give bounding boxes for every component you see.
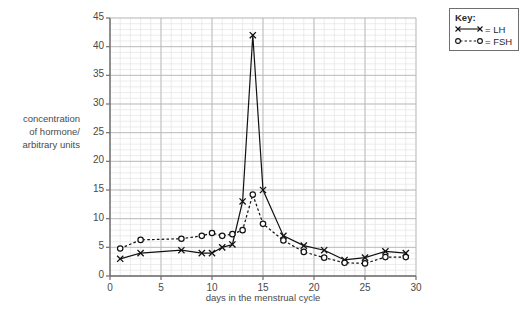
data-point-fsh: [250, 192, 255, 197]
y-tick-label: 5: [80, 240, 104, 251]
y-tick-label: 0: [80, 269, 104, 280]
y-tick-label: 45: [80, 11, 104, 22]
chart-figure: concentration of hormone/ arbitrary unit…: [0, 0, 527, 314]
data-point-fsh: [260, 221, 265, 226]
data-point-fsh: [362, 261, 367, 266]
y-tick-label: 20: [80, 154, 104, 165]
data-point-fsh: [240, 227, 245, 232]
legend-entry-lh: = LH: [455, 23, 514, 35]
data-point-fsh: [118, 246, 123, 251]
legend-label-lh: = LH: [485, 24, 505, 35]
data-point-fsh: [281, 238, 286, 243]
x-tick-label: 30: [401, 282, 431, 293]
y-tick-label: 30: [80, 97, 104, 108]
data-point-fsh: [138, 237, 143, 242]
data-point-fsh: [230, 231, 235, 236]
y-tick-label: 40: [80, 40, 104, 51]
chart-legend: Key: = LH = FSH: [449, 8, 519, 51]
data-point-fsh: [322, 255, 327, 260]
data-point-fsh: [220, 233, 225, 238]
legend-sample-lh-icon: [455, 23, 483, 35]
x-tick-label: 10: [197, 282, 227, 293]
x-tick-label: 0: [95, 282, 125, 293]
data-point-fsh: [383, 254, 388, 259]
data-point-fsh: [342, 260, 347, 265]
x-tick-label: 25: [350, 282, 380, 293]
legend-entry-fsh: = FSH: [455, 35, 514, 47]
y-tick-label: 25: [80, 126, 104, 137]
data-point-fsh: [209, 230, 214, 235]
legend-label-fsh: = FSH: [485, 36, 512, 47]
data-point-fsh: [403, 254, 408, 259]
legend-title: Key:: [455, 12, 514, 23]
y-tick-label: 15: [80, 183, 104, 194]
legend-sample-fsh-icon: [455, 35, 483, 47]
x-tick-label: 20: [299, 282, 329, 293]
data-point-fsh: [179, 236, 184, 241]
y-tick-label: 35: [80, 68, 104, 79]
data-point-fsh: [301, 249, 306, 254]
x-tick-label: 15: [248, 282, 278, 293]
y-tick-label: 10: [80, 212, 104, 223]
data-point-fsh: [199, 233, 204, 238]
x-tick-label: 5: [146, 282, 176, 293]
